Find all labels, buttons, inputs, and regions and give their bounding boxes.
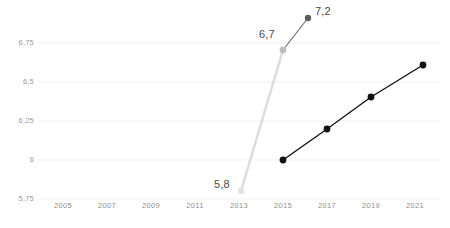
x-tick-2017: 2017 [307,201,347,210]
y-tick-5-75: 5,75 [0,194,34,203]
y-tick-6-25: 6,25 [0,116,34,125]
data-point-2019[interactable] [368,94,375,101]
data-point-2017[interactable] [324,126,331,133]
data-point-2021[interactable] [420,62,427,69]
x-tick-2013: 2013 [219,201,259,210]
line-chart: 6,75 6,5 6,25 6 5,75 2005 2007 2009 2011… [0,0,450,228]
data-label-5-8: 5,8 [214,178,230,190]
x-tick-2015: 2015 [263,201,303,210]
y-tick-6-5: 6,5 [0,77,34,86]
chart-plot-area [0,0,450,228]
x-tick-2011: 2011 [175,201,215,210]
light-series-segment-2 [283,18,308,50]
data-point-2013[interactable] [238,188,244,194]
x-tick-2009: 2009 [131,201,171,210]
light-series-line [241,18,308,191]
data-point-2016[interactable] [305,15,311,21]
gridlines [38,43,440,199]
dark-series-path [283,65,423,160]
y-tick-6-75: 6,75 [0,38,34,47]
x-tick-2019: 2019 [351,201,391,210]
y-tick-6: 6 [0,155,34,164]
x-tick-2007: 2007 [87,201,127,210]
dark-series-line [283,65,423,160]
x-tick-2021: 2021 [395,201,435,210]
x-tick-2005: 2005 [43,201,83,210]
data-point-2015-dark[interactable] [280,157,287,164]
data-point-2015-light[interactable] [280,47,287,54]
data-label-6-7: 6,7 [259,28,275,40]
data-label-7-2: 7,2 [315,5,331,17]
